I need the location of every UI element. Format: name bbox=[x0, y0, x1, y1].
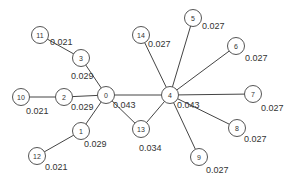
node-value-label-14: 0.027 bbox=[148, 39, 171, 49]
node-9: 9 bbox=[190, 148, 208, 166]
node-11: 11 bbox=[31, 26, 49, 44]
node-value-label-12: 0.021 bbox=[45, 162, 68, 172]
node-13: 13 bbox=[132, 120, 150, 138]
node-value-label-11: 0.021 bbox=[50, 37, 73, 47]
edge-4-7 bbox=[170, 94, 253, 95]
node-7: 7 bbox=[244, 85, 262, 103]
node-10: 10 bbox=[12, 88, 30, 106]
node-value-label-4: 0.043 bbox=[177, 100, 200, 110]
node-value-label-6: 0.027 bbox=[245, 53, 268, 63]
node-5: 5 bbox=[184, 9, 202, 27]
node-value-label-13: 0.034 bbox=[139, 143, 162, 153]
node-value-label-3: 0.029 bbox=[71, 71, 94, 81]
node-value-label-0: 0.043 bbox=[113, 100, 136, 110]
node-value-label-5: 0.027 bbox=[202, 21, 225, 31]
node-value-label-8: 0.027 bbox=[244, 134, 267, 144]
node-value-label-7: 0.027 bbox=[261, 103, 284, 113]
node-6: 6 bbox=[227, 37, 245, 55]
node-value-label-10: 0.021 bbox=[26, 106, 49, 116]
node-1: 1 bbox=[72, 122, 90, 140]
node-value-label-9: 0.027 bbox=[206, 165, 229, 175]
node-value-label-1: 0.029 bbox=[84, 139, 107, 149]
node-value-label-2: 0.029 bbox=[71, 102, 94, 112]
node-3: 3 bbox=[72, 49, 90, 67]
node-12: 12 bbox=[28, 147, 46, 165]
edge-4-6 bbox=[170, 46, 236, 95]
edge-4-5 bbox=[170, 18, 193, 95]
network-graph: 00.04310.02920.02930.02940.04350.02760.0… bbox=[0, 0, 296, 183]
